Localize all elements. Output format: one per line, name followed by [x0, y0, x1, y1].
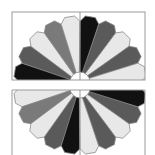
fan-diagram — [0, 0, 155, 155]
